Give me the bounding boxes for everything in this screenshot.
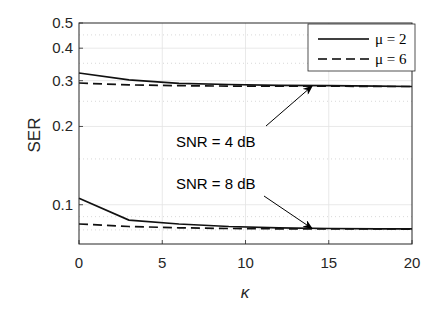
y-tick-label: 0.4 bbox=[52, 39, 73, 56]
y-tick-label: 0.2 bbox=[52, 117, 73, 134]
annotation-label: SNR = 8 dB bbox=[176, 175, 256, 192]
x-tick-label: 5 bbox=[158, 254, 166, 271]
annotation-label: SNR = 4 dB bbox=[176, 133, 256, 150]
x-tick-label: 15 bbox=[320, 254, 337, 271]
ser-chart: 051015200.10.20.30.40.5 SNR = 4 dBSNR = … bbox=[0, 0, 442, 312]
x-axis-label: κ bbox=[241, 283, 251, 302]
y-tick-label: 0.1 bbox=[52, 196, 73, 213]
legend-label-mu6: μ = 6 bbox=[375, 51, 407, 67]
x-tick-label: 20 bbox=[404, 254, 421, 271]
legend: μ = 2 μ = 6 bbox=[308, 24, 415, 71]
y-tick-label: 0.3 bbox=[52, 72, 73, 89]
x-tick-label: 10 bbox=[237, 254, 254, 271]
y-tick-label: 0.5 bbox=[52, 14, 73, 31]
legend-label-mu2: μ = 2 bbox=[375, 31, 407, 47]
y-axis-label: SER bbox=[25, 118, 44, 153]
x-tick-label: 0 bbox=[75, 254, 83, 271]
